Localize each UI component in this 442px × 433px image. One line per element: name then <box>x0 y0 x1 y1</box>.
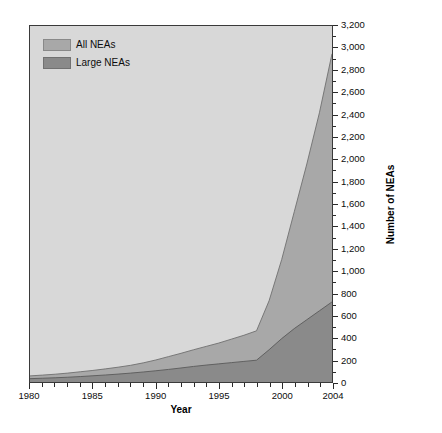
y-tick-1800 <box>333 182 338 183</box>
area-all-neas <box>30 54 332 382</box>
y-tick-label-3000: 3,000 <box>341 43 365 53</box>
x-tick-label-2000: 2000 <box>272 391 293 401</box>
y-tick-label-1400: 1,400 <box>341 222 365 232</box>
x-tick-1987 <box>118 383 119 387</box>
x-tick-2003 <box>320 383 321 387</box>
x-tick-1981 <box>42 383 43 387</box>
y-tick-600 <box>333 316 338 317</box>
x-tick-1996 <box>232 383 233 387</box>
x-tick-1984 <box>80 383 81 387</box>
x-tick-2004 <box>333 383 334 389</box>
y-tick-label-200: 200 <box>341 356 357 366</box>
y-tick-label-600: 600 <box>341 311 357 321</box>
y-axis-title-label: Number of NEAs <box>386 164 397 243</box>
x-tick-1991 <box>168 383 169 387</box>
y-tick-2200 <box>333 137 338 138</box>
y-tick-200 <box>333 361 338 362</box>
x-tick-label-1985: 1985 <box>82 391 103 401</box>
y-tick-label-1600: 1,600 <box>341 199 365 209</box>
y-tick-label-0: 0 <box>341 378 346 388</box>
y-tick-800 <box>333 294 338 295</box>
y-tick-2400 <box>333 115 338 116</box>
x-tick-1998 <box>257 383 258 387</box>
y-tick-minor-700 <box>333 305 336 306</box>
y-tick-label-2400: 2,400 <box>341 110 365 120</box>
x-tick-label-2004: 2004 <box>322 391 343 401</box>
y-tick-minor-1100 <box>333 260 336 261</box>
y-tick-label-800: 800 <box>341 289 357 299</box>
x-tick-2000 <box>282 383 283 389</box>
y-tick-label-2600: 2,600 <box>341 87 365 97</box>
x-tick-1992 <box>181 383 182 387</box>
x-tick-label-1990: 1990 <box>145 391 166 401</box>
x-tick-2001 <box>295 383 296 387</box>
chart-figure: All NEAs Large NEAs 02004006008001,0001,… <box>0 0 442 433</box>
x-tick-1983 <box>67 383 68 387</box>
legend-label-all-neas: All NEAs <box>76 39 115 51</box>
y-tick-label-3200: 3,200 <box>341 20 365 30</box>
y-tick-label-2000: 2,000 <box>341 155 365 165</box>
y-tick-label-2200: 2,200 <box>341 132 365 142</box>
x-tick-1997 <box>244 383 245 387</box>
y-tick-1000 <box>333 271 338 272</box>
y-tick-1400 <box>333 226 338 227</box>
x-tick-1995 <box>219 383 220 389</box>
y-tick-400 <box>333 338 338 339</box>
x-tick-1999 <box>270 383 271 387</box>
chart-plot-svg <box>30 26 332 382</box>
y-tick-3200 <box>333 25 338 26</box>
x-tick-1986 <box>105 383 106 387</box>
y-tick-2600 <box>333 92 338 93</box>
y-tick-1200 <box>333 249 338 250</box>
x-tick-2002 <box>308 383 309 387</box>
y-tick-2000 <box>333 159 338 160</box>
x-tick-1989 <box>143 383 144 387</box>
x-tick-1980 <box>29 383 30 389</box>
y-tick-label-400: 400 <box>341 334 357 344</box>
x-tick-1988 <box>130 383 131 387</box>
y-tick-minor-2500 <box>333 103 336 104</box>
y-tick-2800 <box>333 70 338 71</box>
y-tick-minor-2700 <box>333 81 336 82</box>
x-tick-label-1995: 1995 <box>208 391 229 401</box>
y-tick-minor-2300 <box>333 126 336 127</box>
y-tick-minor-300 <box>333 349 336 350</box>
y-tick-minor-3100 <box>333 36 336 37</box>
x-tick-1993 <box>194 383 195 387</box>
x-tick-1994 <box>206 383 207 387</box>
x-tick-1982 <box>54 383 55 387</box>
y-tick-label-1800: 1,800 <box>341 177 365 187</box>
legend-item-all-neas: All NEAs <box>43 38 130 51</box>
y-tick-3000 <box>333 47 338 48</box>
x-tick-label-1980: 1980 <box>18 391 39 401</box>
y-tick-minor-2900 <box>333 59 336 60</box>
y-tick-label-1200: 1,200 <box>341 244 365 254</box>
legend-swatch-large-neas <box>43 57 71 69</box>
y-tick-minor-1300 <box>333 238 336 239</box>
legend-item-large-neas: Large NEAs <box>43 56 130 69</box>
x-tick-1990 <box>156 383 157 389</box>
legend-swatch-all-neas <box>43 39 71 51</box>
legend-label-large-neas: Large NEAs <box>76 57 130 69</box>
y-tick-minor-2100 <box>333 148 336 149</box>
y-tick-1600 <box>333 204 338 205</box>
y-tick-label-1000: 1,000 <box>341 266 365 276</box>
y-tick-minor-900 <box>333 282 336 283</box>
y-tick-minor-100 <box>333 372 336 373</box>
y-tick-minor-1700 <box>333 193 336 194</box>
x-tick-1985 <box>92 383 93 389</box>
chart-legend: All NEAs Large NEAs <box>43 38 130 74</box>
y-axis-title: Number of NEAs <box>384 25 398 383</box>
area-series-group <box>30 54 332 382</box>
y-tick-minor-500 <box>333 327 336 328</box>
y-tick-minor-1500 <box>333 215 336 216</box>
x-axis-title: Year <box>29 404 333 415</box>
y-tick-minor-1900 <box>333 170 336 171</box>
plot-area <box>29 25 333 383</box>
y-tick-label-2800: 2,800 <box>341 65 365 75</box>
